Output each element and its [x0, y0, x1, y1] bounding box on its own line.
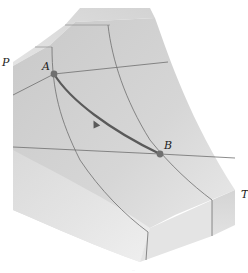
temperature-axis-label: T — [241, 188, 248, 201]
pressure-axis-label: P — [1, 56, 10, 69]
pvt-surface-diagram: A B P T ... — [0, 0, 248, 273]
caption-mark: ... — [132, 268, 135, 272]
point-a-marker — [51, 71, 58, 78]
point-b-label: B — [163, 139, 172, 152]
point-b-marker — [157, 151, 164, 158]
point-a-label: A — [41, 60, 50, 73]
